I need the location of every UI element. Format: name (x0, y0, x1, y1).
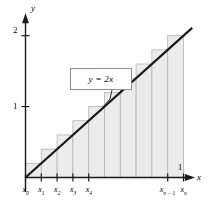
y-axis-arrow-icon (22, 13, 29, 23)
y-axis-label: y (31, 4, 35, 13)
x-partition-label: x0 (23, 186, 29, 196)
x-partition-label: xn − 1 (160, 186, 176, 196)
x-partition-label: x2 (54, 186, 60, 196)
x-partition-label: x3 (70, 186, 76, 196)
rectangle-bar (168, 36, 184, 178)
riemann-sum-figure: y x 2 1 1 x0x1x2x3x4xn − 1xn y = 2x (0, 0, 208, 207)
rectangle-bar (152, 50, 168, 178)
x-axis-arrow-icon (185, 174, 195, 181)
rectangle-bar (136, 64, 152, 177)
x-axis-endpoint-label: 1 (178, 163, 182, 172)
x-axis-label: x (197, 173, 201, 182)
function-callout-text: y = 2x (89, 75, 114, 84)
x-partition-label: xn (181, 186, 187, 196)
y-tick-label-1: 1 (13, 102, 18, 111)
rectangle-bar (120, 78, 136, 177)
function-callout-box: y = 2x (70, 68, 132, 90)
rectangle-bar (41, 149, 57, 177)
x-partition-label: x1 (38, 186, 44, 196)
plot-canvas (0, 0, 208, 207)
x-partition-label: x4 (86, 186, 92, 196)
y-tick-label-2: 2 (13, 26, 18, 35)
